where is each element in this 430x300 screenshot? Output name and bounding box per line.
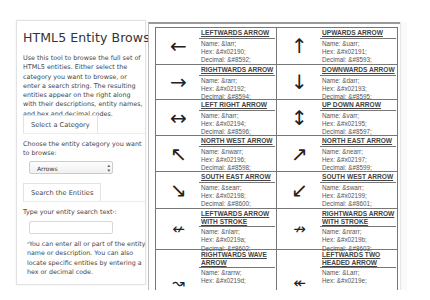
results-scrollbar[interactable] [400,22,407,292]
search-footnote: *You can enter all or part of the entity… [27,239,147,276]
table-row: ↚ LEFTWARDS ARROW WITH STROKEName: &nlar… [156,209,398,250]
entity-name: LEFTWARDS ARROW [201,29,275,37]
entity-cell[interactable]: ↔ LEFT RIGHT ARROWName: &harr;Hex: &#x02… [156,100,277,135]
entity-name: DOWNWARDS ARROW [322,66,396,74]
table-row: ↖ NORTH WEST ARROWName: &nwarr;Hex: &#x0… [156,136,398,172]
entity-cell[interactable]: ↖ NORTH WEST ARROWName: &nwarr;Hex: &#x0… [156,136,277,171]
intro-text: Use this tool to browse the full set of … [23,54,145,119]
up-down-arrow-icon: ↕ [277,100,322,135]
entity-cell[interactable]: ↕ UP DOWN ARROWName: &varr;Hex: &#x02195… [277,100,398,135]
rightwards-wave-arrow-icon: ↝ [156,250,201,295]
table-row: ↘ SOUTH EAST ARROWName: &searr;Hex: &#x0… [156,172,398,209]
tab-select-category[interactable]: Select a Category [23,115,98,134]
entity-name: NORTH EAST ARROW [322,137,396,145]
entity-cell[interactable]: ↚ LEFTWARDS ARROW WITH STROKEName: &nlar… [156,209,277,249]
category-select[interactable]: Arrows ▴▾ [29,161,113,174]
table-row: ← LEFTWARDS ARROWName: &larr;Hex: &#x021… [156,28,398,65]
leftwards-arrow-icon: ← [156,28,201,64]
south-west-arrow-icon: ↙ [277,172,322,208]
entity-cell[interactable]: ↛ RIGHTWARDS ARROW WITH STROKEName: &nra… [277,209,398,249]
rightwards-arrow-with-stroke-icon: ↛ [277,209,322,249]
upwards-arrow-icon: ↑ [277,28,322,64]
entity-name: LEFT RIGHT ARROW [201,101,275,109]
entity-cell[interactable]: ↘ SOUTH EAST ARROWName: &searr;Hex: &#x0… [156,172,277,208]
left-panel: HTML5 Entity Browser Use this tool to br… [16,20,146,285]
south-east-arrow-icon: ↘ [156,172,201,208]
north-east-arrow-icon: ↗ [277,136,322,171]
category-label: Choose the entity category you want to b… [23,140,145,158]
page-title: HTML5 Entity Browser [23,30,163,45]
category-select-value: Arrows [37,165,58,172]
entity-cell[interactable]: ↝ RIGHTWARDS WAVE ARROWName: &rarrw;Hex:… [156,250,277,295]
entity-name: LEFTWARDS ARROW WITH STROKE [201,210,275,225]
rightwards-arrow-icon: → [156,65,201,99]
entity-results-table: ← LEFTWARDS ARROWName: &larr;Hex: &#x021… [155,27,398,295]
results-frame-bottom [148,290,406,300]
table-row: ↔ LEFT RIGHT ARROWName: &harr;Hex: &#x02… [156,100,398,136]
entity-cell[interactable]: ↓ DOWNWARDS ARROWName: &darr;Hex: &#x021… [277,65,398,99]
leftwards-arrow-with-stroke-icon: ↚ [156,209,201,249]
entity-name: SOUTH WEST ARROW [322,173,396,181]
entity-name: RIGHTWARDS ARROW WITH STROKE [322,210,396,225]
table-row: → RIGHTWARDS ARROWName: &rarr;Hex: &#x02… [156,65,398,100]
tab-divider [23,201,145,202]
entity-cell[interactable]: ↑ UPWARDS ARROWName: &uarr;Hex: &#x02191… [277,28,398,64]
entity-name: RIGHTWARDS WAVE ARROW [201,251,275,266]
entity-name: UP DOWN ARROW [322,101,396,109]
left-right-arrow-icon: ↔ [156,100,201,135]
tab-search-entities[interactable]: Search the Entities [23,183,101,202]
entity-cell[interactable]: ↙ SOUTH WEST ARROWName: &swarr;Hex: &#x0… [277,172,398,208]
north-west-arrow-icon: ↖ [156,136,201,171]
entity-cell[interactable]: ← LEFTWARDS ARROWName: &larr;Hex: &#x021… [156,28,277,64]
entity-name: RIGHTWARDS ARROW [201,66,275,74]
entity-cell[interactable]: ↗ NORTH EAST ARROWName: &nearr;Hex: &#x0… [277,136,398,171]
entity-name: UPWARDS ARROW [322,29,396,37]
entity-name: LEFTWARDS TWO HEADED ARROW [322,251,396,266]
table-row: ↝ RIGHTWARDS WAVE ARROWName: &rarrw;Hex:… [156,250,398,295]
leftwards-two-headed-arrow-icon: ↞ [277,250,322,295]
downwards-arrow-icon: ↓ [277,65,322,99]
entity-cell[interactable]: → RIGHTWARDS ARROWName: &rarr;Hex: &#x02… [156,65,277,99]
select-stepper-icon: ▴▾ [107,163,110,173]
search-input[interactable] [29,221,113,234]
search-label: Type your entity search text*: [23,208,145,217]
entity-name: SOUTH EAST ARROW [201,173,275,181]
entity-cell[interactable]: ↞ LEFTWARDS TWO HEADED ARROWName: &Larr;… [277,250,398,295]
entity-name: NORTH WEST ARROW [201,137,275,145]
tab-divider [23,133,145,134]
